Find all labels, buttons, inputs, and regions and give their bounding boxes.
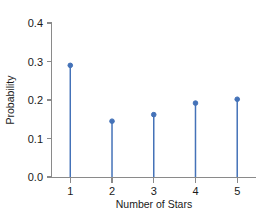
chart-container: 0.00.10.20.30.4 12345 Number of Stars Pr… [0,0,272,220]
x-tick-label: 2 [109,185,115,197]
y-tick-label: 0.3 [28,56,43,68]
data-point-marker [110,119,115,124]
data-point-marker [235,97,240,102]
data-point-marker [151,112,156,117]
stem-plot-svg: 0.00.10.20.30.4 12345 Number of Stars Pr… [0,0,272,220]
y-tick-label: 0.0 [28,171,43,183]
x-tick-label: 3 [151,185,157,197]
x-tick-label: 1 [67,185,73,197]
y-tick-label: 0.4 [28,17,43,29]
x-tick-label: 4 [192,185,198,197]
x-axis-title: Number of Stars [116,198,192,210]
y-tick-label: 0.1 [28,133,43,145]
y-tick-label: 0.2 [28,94,43,106]
plot-background [0,0,272,220]
data-point-marker [68,63,73,68]
data-point-marker [193,101,198,106]
y-axis-title: Probability [4,75,16,125]
x-tick-label: 5 [234,185,240,197]
